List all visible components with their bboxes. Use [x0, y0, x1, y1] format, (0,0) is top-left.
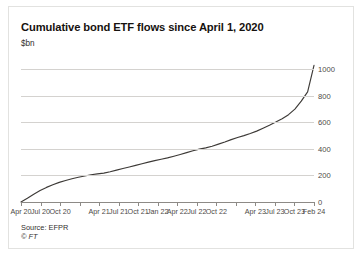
x-axis-tick — [197, 202, 198, 206]
x-axis-tick-label: Oct 22 — [206, 207, 227, 216]
x-axis-tick — [60, 202, 61, 206]
x-axis-tick-label: Apr 23 — [245, 207, 266, 216]
x-axis-tick — [99, 202, 100, 206]
x-axis-tick-label: Jul 20 — [31, 207, 50, 216]
flows-line-series — [21, 56, 314, 202]
y-axis-tick-label: 0 — [318, 198, 322, 207]
x-axis-tick-label: Apr 20 — [10, 207, 31, 216]
x-axis-line — [21, 202, 314, 203]
gridline — [21, 122, 314, 123]
x-axis-tick-label: Jul 23 — [265, 207, 284, 216]
x-axis-tick-label: Jul 21 — [109, 207, 128, 216]
chart-title: Cumulative bond ETF flows since April 1,… — [21, 21, 264, 33]
y-axis-tick-label: 800 — [318, 91, 331, 100]
y-axis-tick-label: 400 — [318, 144, 331, 153]
y-axis-tick-label: 200 — [318, 171, 331, 180]
plot-area — [21, 56, 314, 202]
x-axis-tick — [314, 202, 315, 206]
x-axis-tick — [41, 202, 42, 206]
chart-subtitle: $bn — [21, 39, 35, 48]
x-axis-tick — [294, 202, 295, 206]
y-axis-tick-label: 600 — [318, 118, 331, 127]
source-note: Source: EFPR — [21, 223, 68, 232]
gridline — [21, 175, 314, 176]
x-axis-tick-label: Oct 20 — [49, 207, 70, 216]
gridline — [21, 149, 314, 150]
x-axis-tick — [275, 202, 276, 206]
x-axis-tick — [236, 202, 237, 206]
x-axis-tick-label: Oct 21 — [128, 207, 149, 216]
y-axis-tick-label: 1000 — [318, 65, 335, 74]
x-axis-tick — [80, 202, 81, 206]
x-axis-tick — [177, 202, 178, 206]
gridline — [21, 96, 314, 97]
chart-card: Cumulative bond ETF flows since April 1,… — [0, 0, 362, 258]
x-axis-tick-label: Jul 22 — [187, 207, 206, 216]
x-axis-tick — [138, 202, 139, 206]
copyright-note: © FT — [21, 232, 38, 241]
x-axis-tick-label: Feb 24 — [303, 207, 325, 216]
x-axis-tick-label: Apr 21 — [89, 207, 110, 216]
x-axis-tick — [216, 202, 217, 206]
x-axis-tick-label: Apr 22 — [167, 207, 188, 216]
x-axis-tick — [158, 202, 159, 206]
x-axis-tick — [119, 202, 120, 206]
gridline — [21, 69, 314, 70]
x-axis-tick — [21, 202, 22, 206]
x-axis-tick-label: Jan 22 — [147, 207, 169, 216]
x-axis-tick — [255, 202, 256, 206]
